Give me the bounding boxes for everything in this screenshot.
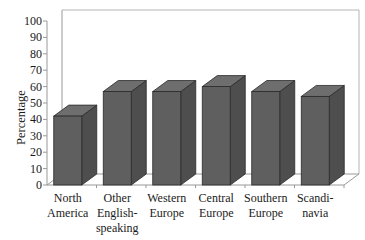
y-tick-label: 40 [30,112,42,126]
bar-side [280,81,295,185]
bar-front [103,92,131,185]
x-category-label: CentralEurope [188,191,244,221]
bar-front [202,87,230,185]
bar [202,76,245,185]
bars [54,76,345,185]
y-tick-label: 90 [30,30,42,44]
bar-front [54,116,82,185]
y-axis-label: Percentage [14,83,29,153]
x-category-label: NorthAmerica [40,191,96,221]
bar-side [181,81,196,185]
x-category-label: OtherEnglish-speaking [89,191,145,236]
bar-side [329,85,344,185]
x-category-label: SouthernEurope [238,191,294,221]
y-tick-label: 70 [30,63,42,77]
bar-front [252,92,280,185]
bar [252,81,295,185]
y-tick-label: 10 [30,162,42,176]
bar [103,81,146,185]
bar-front [301,96,329,185]
x-category-label: WesternEurope [139,191,195,221]
y-tick-label: 60 [30,80,42,94]
bar-front [153,92,181,185]
bar-side [82,105,97,185]
y-tick-label: 80 [30,47,42,61]
y-tick-label: 100 [24,14,42,28]
bar-side [230,76,245,185]
x-category-label: Scandi-navia [287,191,343,221]
bar [153,81,196,185]
y-tick-label: 0 [36,178,42,192]
bar [301,85,344,185]
bar [54,105,97,185]
y-tick-label: 50 [30,96,42,110]
bar-side [131,81,146,185]
y-tick-label: 20 [30,145,42,159]
y-tick-label: 30 [30,129,42,143]
